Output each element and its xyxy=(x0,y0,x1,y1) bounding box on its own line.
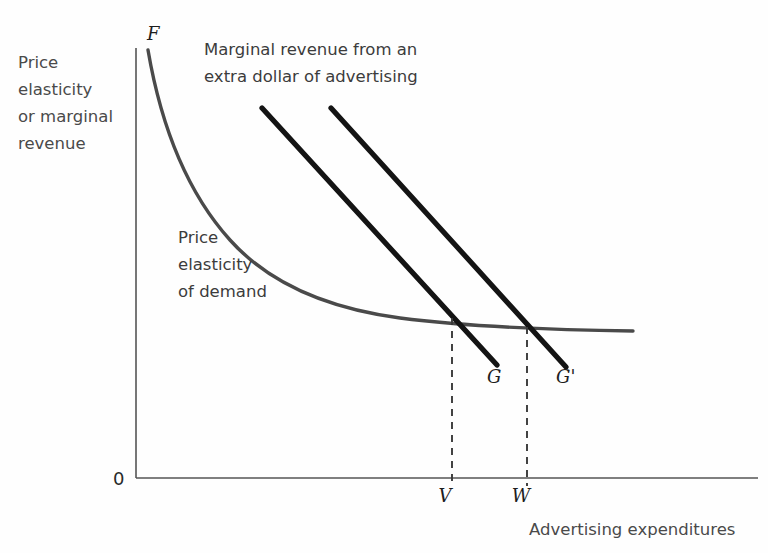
elasticity-caption-line-2: elasticity xyxy=(178,255,253,274)
marginal-revenue-line-g-prime xyxy=(331,108,566,367)
elasticity-caption-line-1: Price xyxy=(178,228,218,247)
mr-caption-line-1: Marginal revenue from an xyxy=(204,40,417,59)
origin-label: 0 xyxy=(113,468,124,489)
figure-canvas: Price elasticity or marginal revenue Mar… xyxy=(0,0,768,553)
y-axis-label-line-3: or marginal xyxy=(18,107,113,126)
x-tick-label-w: W xyxy=(512,485,532,506)
x-tick-label-v: V xyxy=(439,485,454,506)
line-end-label-g-prime: G' xyxy=(556,366,575,387)
elasticity-caption-line-3: of demand xyxy=(178,282,267,301)
line-end-label-g: G xyxy=(487,366,501,387)
marginal-revenue-line-g xyxy=(262,108,497,365)
y-axis-label-line-2: elasticity xyxy=(18,80,93,99)
curve-start-label-f: F xyxy=(146,23,161,44)
x-axis-label: Advertising expenditures xyxy=(529,520,735,539)
economics-figure: Price elasticity or marginal revenue Mar… xyxy=(0,0,768,553)
y-axis-label-line-1: Price xyxy=(18,53,58,72)
mr-caption-line-2: extra dollar of advertising xyxy=(204,67,418,86)
y-axis-label-line-4: revenue xyxy=(18,134,86,153)
